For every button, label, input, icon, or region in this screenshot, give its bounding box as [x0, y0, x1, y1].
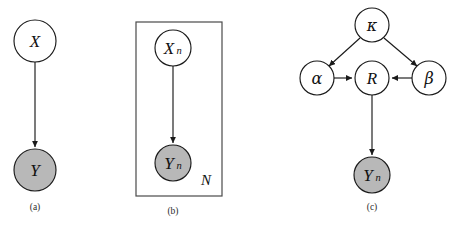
node-Y[interactable]: Y	[14, 149, 56, 191]
panel-c: καRβYn(c)	[300, 8, 446, 213]
node-R[interactable]: R	[355, 61, 389, 95]
node-Yn_c[interactable]: Yn	[354, 157, 390, 193]
node-label-R: R	[366, 69, 378, 88]
node-Yn[interactable]: Yn	[155, 145, 191, 181]
graphical-model-figure: XY(a)NXnYn(b)καRβYn(c)	[0, 0, 463, 230]
panel-caption-b: (b)	[167, 206, 178, 217]
node-label-X: X	[29, 32, 41, 51]
node-X[interactable]: X	[14, 20, 56, 62]
panel-a: XY(a)	[14, 20, 56, 213]
node-subscript-Xn: n	[176, 45, 181, 56]
node-label-kappa: κ	[366, 16, 378, 35]
edge-kappa-to-beta	[384, 38, 417, 66]
node-beta[interactable]: β	[412, 61, 446, 95]
node-alpha[interactable]: α	[300, 61, 334, 95]
node-label-Yn: Y	[164, 154, 175, 173]
plate-count-label: N	[200, 172, 212, 188]
panel-caption-c: (c)	[367, 202, 378, 213]
node-label-Y: Y	[30, 161, 41, 180]
edge-kappa-to-alpha	[329, 38, 360, 66]
node-Xn[interactable]: Xn	[155, 30, 191, 66]
node-label-alpha: α	[312, 69, 323, 88]
node-subscript-Yn: n	[176, 160, 181, 171]
node-label-Yn_c: Y	[363, 166, 374, 185]
diagram-canvas: XY(a)NXnYn(b)καRβYn(c)	[0, 0, 463, 230]
panel-b: NXnYn(b)	[136, 22, 222, 217]
node-label-beta: β	[423, 69, 433, 88]
panels-group: XY(a)NXnYn(b)καRβYn(c)	[14, 8, 446, 217]
node-subscript-Yn_c: n	[375, 172, 380, 183]
node-kappa[interactable]: κ	[355, 8, 389, 42]
node-label-Xn: X	[163, 39, 175, 58]
panel-caption-a: (a)	[30, 202, 41, 213]
